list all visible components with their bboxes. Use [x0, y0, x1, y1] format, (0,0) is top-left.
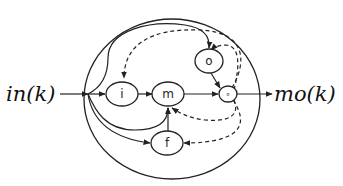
recurrent-edge-to-m [172, 100, 236, 120]
svg-text:∘: ∘ [225, 90, 230, 99]
recurrent-edge-to-f [184, 100, 241, 143]
node-product: ∘ [219, 86, 237, 102]
node-f: f [151, 131, 183, 155]
edge-o-to-product [211, 73, 220, 88]
node-o: o [195, 49, 223, 73]
node-m: m [152, 82, 184, 106]
lstm-cell-diagram: in(k) i m o ∘ f mo(k) [0, 0, 343, 186]
edge-in-to-o [88, 24, 209, 94]
node-i: i [106, 82, 138, 106]
input-label: in(k) [6, 82, 55, 106]
output-label: mo(k) [274, 82, 336, 106]
svg-text:m: m [162, 87, 174, 101]
svg-text:o: o [205, 54, 212, 68]
svg-text:i: i [120, 87, 123, 101]
